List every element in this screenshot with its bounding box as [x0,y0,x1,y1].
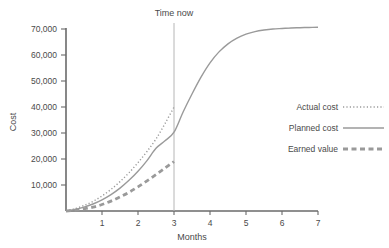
x-tick-label: 4 [208,218,213,228]
y-tick-label: 70,000 [31,24,57,34]
y-tick-label: 10,000 [31,180,57,190]
x-tick-label: 6 [280,218,285,228]
chart-series [66,27,318,211]
y-axis-ticks: 10,00020,00030,00040,00050,00060,00070,0… [31,24,66,190]
x-tick-label: 3 [172,218,177,228]
chart-axes [66,28,318,211]
chart-legend: Actual costPlanned costEarned value [288,102,384,154]
y-tick-label: 20,000 [31,154,57,164]
chart-canvas: 10,00020,00030,00040,00050,00060,00070,0… [0,0,389,248]
chart-annotations: Time now [155,8,194,211]
series-actual-cost [66,107,174,211]
x-axis-ticks: 1234567 [100,211,321,228]
y-axis-title: Cost [8,112,18,131]
y-tick-label: 30,000 [31,128,57,138]
x-tick-label: 1 [100,218,105,228]
x-tick-label: 5 [244,218,249,228]
y-tick-label: 50,000 [31,76,57,86]
legend-label: Actual cost [296,102,338,112]
legend-item-earned-value[interactable]: Earned value [288,144,384,154]
y-tick-label: 40,000 [31,102,57,112]
x-tick-label: 2 [136,218,141,228]
earned-value-chart: 10,00020,00030,00040,00050,00060,00070,0… [0,0,389,248]
series-earned-value [66,162,174,211]
legend-item-planned-cost[interactable]: Planned cost [289,123,384,133]
legend-label: Planned cost [289,123,339,133]
x-axis-title: Months [177,232,207,242]
y-tick-label: 60,000 [31,50,57,60]
x-tick-label: 7 [316,218,321,228]
legend-item-actual-cost[interactable]: Actual cost [296,102,384,112]
time-now-label: Time now [155,8,194,18]
series-planned-cost [66,27,318,211]
legend-label: Earned value [288,144,338,154]
